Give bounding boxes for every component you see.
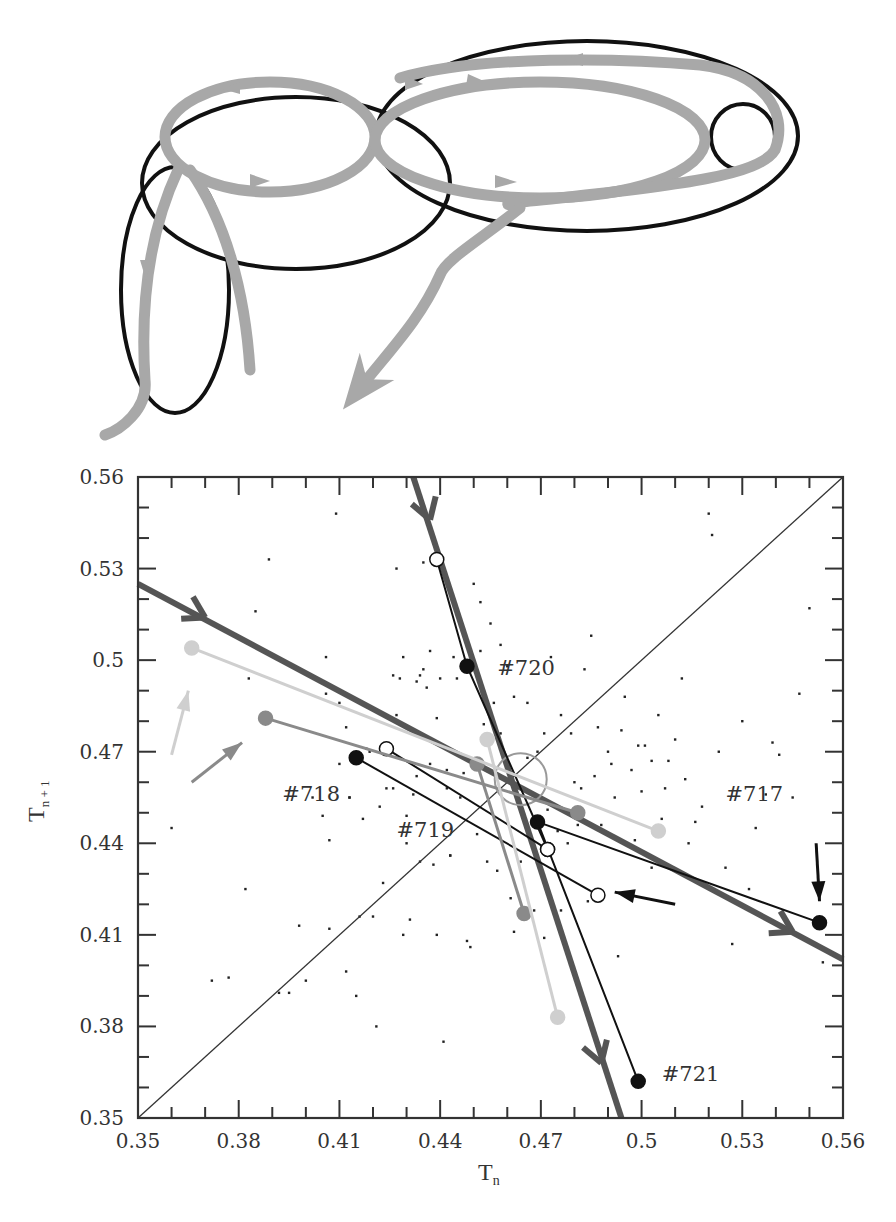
filled-marker (813, 916, 827, 930)
filled-marker (551, 1010, 565, 1024)
data-point (546, 809, 548, 811)
data-point (244, 888, 246, 890)
trajectory-label: #718 (282, 782, 340, 806)
data-point (473, 583, 475, 585)
data-point (362, 818, 364, 820)
data-point (452, 656, 454, 658)
data-point (607, 751, 609, 753)
data-point (580, 787, 582, 789)
x-axis-title: Tn (478, 1159, 500, 1188)
data-point (630, 769, 632, 771)
x-tick-label: 0.47 (519, 1129, 564, 1153)
data-point (405, 815, 407, 817)
data-point (382, 882, 384, 884)
x-tick-label: 0.35 (116, 1129, 161, 1153)
data-point (325, 656, 327, 658)
data-point (543, 937, 545, 939)
data-point (429, 763, 431, 765)
filled-marker (651, 824, 665, 838)
data-point (469, 946, 471, 948)
data-point (288, 992, 290, 994)
trajectory-line (356, 758, 598, 895)
data-point (533, 909, 535, 911)
data-point (422, 561, 424, 563)
open-marker (591, 888, 605, 902)
data-point (708, 512, 710, 514)
data-point (459, 796, 461, 798)
y-tick-labels: 0.350.380.410.440.470.50.530.56 (79, 465, 124, 1130)
trajectory-label: #721 (662, 1062, 720, 1086)
trajectory-labels: #720#718#719#717#721 (282, 656, 783, 1086)
filled-marker (460, 659, 474, 673)
data-point (345, 970, 347, 972)
arrowhead-icon (177, 691, 191, 712)
data-point (711, 534, 713, 536)
data-point (278, 992, 280, 994)
data-point (583, 668, 585, 670)
data-point (650, 760, 652, 762)
data-point (661, 818, 663, 820)
data-point (536, 751, 538, 753)
data-point (254, 610, 256, 612)
data-point (402, 656, 404, 658)
data-point (822, 961, 824, 963)
data-point (345, 726, 347, 728)
data-point (462, 772, 464, 774)
data-point (597, 726, 599, 728)
data-point (567, 842, 569, 844)
data-point (405, 842, 407, 844)
data-point (624, 696, 626, 698)
filled-marker (349, 751, 363, 765)
data-point (399, 677, 401, 679)
data-point (328, 839, 330, 841)
data-point (449, 854, 451, 856)
chevron-arrow-icon (430, 496, 436, 519)
chevron-arrow-icon (769, 932, 793, 933)
data-point (426, 686, 428, 688)
data-point (791, 796, 793, 798)
trajectory-label: #719 (397, 818, 455, 842)
data-point (664, 787, 666, 789)
open-marker (541, 842, 555, 856)
data-point (687, 842, 689, 844)
data-point (634, 839, 636, 841)
data-point (392, 674, 394, 676)
chevron-arrow-icon (181, 617, 205, 618)
y-tick-label: 0.53 (79, 557, 124, 581)
thick-line-shallow (138, 584, 843, 959)
data-point (446, 769, 448, 771)
data-point (667, 760, 669, 762)
data-point (409, 918, 411, 920)
data-point (543, 732, 545, 734)
trajectory-line (192, 648, 659, 831)
data-point (379, 805, 381, 807)
data-point (268, 558, 270, 560)
data-point (577, 824, 579, 826)
data-point (415, 775, 417, 777)
y-tick-label: 0.5 (92, 648, 124, 672)
x-tick-label: 0.5 (626, 1129, 658, 1153)
data-point (681, 677, 683, 679)
data-point (466, 940, 468, 942)
data-point (513, 696, 515, 698)
data-point (355, 995, 357, 997)
trajectory-label: #717 (726, 782, 784, 806)
data-point (657, 714, 659, 716)
data-point (617, 955, 619, 957)
data-point (684, 778, 686, 780)
data-point (808, 607, 810, 609)
data-point (479, 650, 481, 652)
data-point (211, 979, 213, 981)
data-point (348, 796, 350, 798)
y-axis-title: Tn + 1 (23, 780, 52, 822)
data-point (513, 931, 515, 933)
data-point (718, 751, 720, 753)
data-point (724, 867, 726, 869)
data-point (415, 680, 417, 682)
data-point (170, 827, 172, 829)
trajectory-line (538, 822, 820, 1081)
data-point (489, 622, 491, 624)
data-point (439, 677, 441, 679)
data-point (298, 925, 300, 927)
data-point (328, 928, 330, 930)
